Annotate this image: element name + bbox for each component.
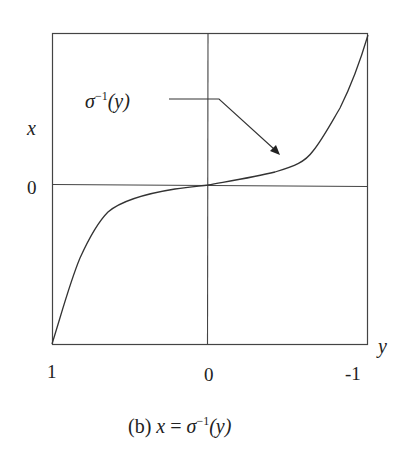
y-tick-zero: 0: [27, 178, 37, 197]
x-axis-label: y: [378, 336, 387, 356]
caption-prefix: (b): [128, 415, 151, 437]
curve-annotation-label: σ−1(y): [85, 91, 130, 111]
annotation-superscript: −1: [95, 89, 108, 103]
vertical-zero-line: [208, 34, 209, 345]
inverse-sigmoid-curve: [52, 35, 368, 344]
annotation-leader-line: [169, 99, 274, 149]
annotation-argument: (y): [108, 90, 130, 112]
x-tick-zero: 0: [204, 365, 214, 384]
figure-caption: (b) x = σ−1(y): [128, 416, 231, 436]
annotation-sigma: σ: [85, 90, 95, 112]
caption-superscript: −1: [196, 414, 209, 428]
caption-argument: (y): [209, 415, 231, 437]
x-tick-one: 1: [47, 362, 57, 381]
plot-frame: [53, 34, 368, 345]
y-axis-label: x: [27, 118, 36, 138]
x-tick-minus-one: -1: [345, 364, 361, 383]
caption-equals: =: [170, 415, 181, 437]
caption-lhs: x: [156, 415, 165, 437]
plot-svg: [0, 0, 412, 469]
caption-sigma: σ: [187, 415, 197, 437]
figure: σ−1(y) x 0 1 0 -1 y (b) x = σ−1(y): [0, 0, 412, 469]
